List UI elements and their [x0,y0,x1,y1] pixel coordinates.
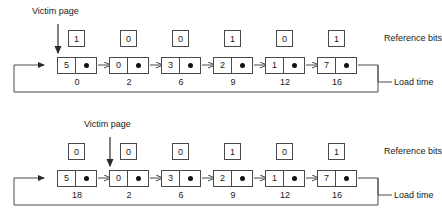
node-page-number: 0 [109,57,128,74]
node-page-number: 3 [161,57,180,74]
node-load-time: 12 [265,77,305,88]
node-load-time: 0 [57,77,97,88]
pointer-dot-icon [136,176,141,181]
diagram-after-lines [0,111,436,222]
victim-page-label: Victim page [32,6,79,17]
pointer-dot-icon [240,63,245,68]
reference-bit-box: 1 [328,30,345,47]
queue-node: 7 [317,57,357,74]
load-time-label: Load time [394,77,434,88]
pointer-dot-icon [188,63,193,68]
node-page-number: 1 [265,170,284,187]
reference-bit-box: 0 [172,143,189,160]
node-next-pointer [128,170,149,187]
node-page-number: 0 [109,170,128,187]
reference-bit-box: 1 [68,30,85,47]
node-load-time: 6 [161,190,201,201]
pointer-dot-icon [188,176,193,181]
queue-node: 3 [161,57,201,74]
node-next-pointer [284,170,305,187]
pointer-dot-icon [240,176,245,181]
queue-node: 1 [265,170,305,187]
reference-bit-box: 0 [172,30,189,47]
queue-node: 1 [265,57,305,74]
reference-bit-box: 0 [120,30,137,47]
reference-bits-label: Reference bits [384,33,442,44]
node-next-pointer [180,170,201,187]
pointer-dot-icon [344,176,349,181]
reference-bit-box: 0 [68,143,85,160]
diagram-after: Victim page 0 0 0 1 0 1 5 0 3 2 1 7 [0,111,436,222]
node-load-time: 6 [161,77,201,88]
reference-bit-box: 1 [224,143,241,160]
diagram-before: Victim page 1 0 0 1 0 1 5 0 3 2 1 7 [0,0,436,111]
node-next-pointer [284,57,305,74]
queue-node: 3 [161,170,201,187]
node-next-pointer [180,57,201,74]
node-page-number: 7 [317,170,336,187]
node-load-time: 12 [265,190,305,201]
load-time-label: Load time [394,190,434,201]
node-page-number: 5 [57,57,76,74]
node-load-time: 16 [317,190,357,201]
reference-bits-label: Reference bits [384,146,442,157]
node-load-time: 2 [109,77,149,88]
reference-bit-box: 0 [120,143,137,160]
reference-bit-box: 1 [224,30,241,47]
node-load-time: 2 [109,190,149,201]
pointer-dot-icon [84,176,89,181]
queue-node: 5 [57,57,97,74]
node-page-number: 5 [57,170,76,187]
node-page-number: 2 [213,170,232,187]
reference-bit-box: 1 [328,143,345,160]
node-next-pointer [128,57,149,74]
reference-bit-box: 0 [276,30,293,47]
queue-node: 2 [213,57,253,74]
node-page-number: 2 [213,57,232,74]
node-next-pointer [232,170,253,187]
queue-node: 2 [213,170,253,187]
node-load-time: 16 [317,77,357,88]
queue-node: 0 [109,170,149,187]
victim-page-label: Victim page [84,119,131,130]
pointer-dot-icon [84,63,89,68]
queue-node: 0 [109,57,149,74]
node-page-number: 1 [265,57,284,74]
queue-node: 5 [57,170,97,187]
node-next-pointer [76,57,97,74]
node-next-pointer [76,170,97,187]
node-load-time: 18 [57,190,97,201]
pointer-dot-icon [136,63,141,68]
pointer-dot-icon [292,176,297,181]
queue-node: 7 [317,170,357,187]
node-next-pointer [232,57,253,74]
node-next-pointer [336,57,357,74]
node-page-number: 7 [317,57,336,74]
pointer-dot-icon [344,63,349,68]
node-page-number: 3 [161,170,180,187]
node-load-time: 9 [213,77,253,88]
pointer-dot-icon [292,63,297,68]
node-next-pointer [336,170,357,187]
reference-bit-box: 0 [276,143,293,160]
node-load-time: 9 [213,190,253,201]
